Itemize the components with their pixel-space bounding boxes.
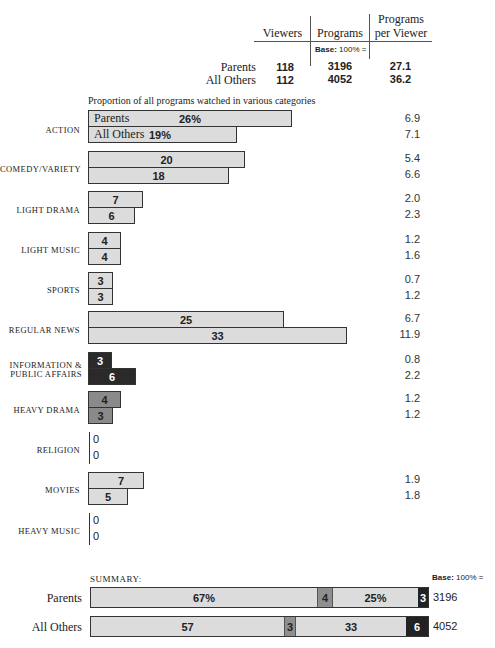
bar-heavy-drama-others: 3 [88,407,113,424]
chart-subtitle: Proportion of all programs watched in va… [88,95,315,106]
base-rest: 100% = [339,45,366,54]
category-label-heavy-music: HEAVY MUSIC [0,526,80,536]
ppv-heavy-drama-parents: 1.2 [395,392,420,404]
ppv-sports-parents: 0.7 [395,273,420,285]
value: 6 [109,371,115,383]
bar-info-others: 6 [88,368,136,385]
value: 25 [180,314,192,326]
summary-title: SUMMARY: [90,574,142,584]
ppv-news-parents: 6.7 [395,312,420,324]
base-bold: Base: [432,573,454,582]
segment-info-public-affairs: 6 [406,617,428,636]
category-label-movies: MOVIES [0,485,80,495]
header-rule [254,41,432,42]
ppv-sports-others: 1.2 [395,289,420,301]
value: 19% [149,129,171,141]
ppv-light-drama-others: 2.3 [395,208,420,220]
col-header-ppv-line2: per Viewer [370,26,432,40]
category-label-comedy-variety: COMEDY/VARIETY [0,164,80,174]
segment-heavy-drama: 4 [317,588,332,607]
bar-news-parents: 25 [88,311,284,328]
value: 26% [179,113,201,125]
value-heavy-music-parents: 0 [93,514,99,526]
bar-action-parents: Parents 26% [88,110,292,127]
base-rest: 100% = [456,573,483,582]
col-header-viewers: Viewers [255,26,310,40]
viewers-parents: 118 [265,61,305,73]
summary-row-label-others: All Others [0,620,82,635]
ppv-light-music-parents: 1.2 [395,233,420,245]
bar-heavy-drama-parents: 4 [88,391,121,408]
ppv-parents: 27.1 [378,60,423,72]
segment-info-public-affairs: 3 [418,588,428,607]
segment-light-entertainment: 57 [91,617,284,636]
bar-light-drama-parents: 7 [88,191,143,208]
ppv-others: 36.2 [378,73,423,85]
programs-others: 4052 [315,73,365,85]
value: 33 [211,330,223,342]
value: 3 [97,355,103,367]
ppv-action-others: 7.1 [395,128,420,140]
legend-others: All Others [94,127,144,142]
ppv-news-others: 11.9 [395,328,420,340]
ppv-comedy-others: 6.6 [395,168,420,180]
ppv-light-drama-parents: 2.0 [395,192,420,204]
summary-base-others: 4052 [433,620,457,632]
segment-light-entertainment: 67% [91,588,317,607]
segment-news: 33 [295,617,406,636]
bar-movies-parents: 7 [88,472,144,489]
col-header-programs: Programs [311,26,369,40]
category-label-religion: RELIGION [0,445,80,455]
value: 7 [108,475,124,487]
ppv-comedy-parents: 5.4 [395,152,420,164]
ppv-heavy-drama-others: 1.2 [395,408,420,420]
bar-movies-others: 5 [88,488,128,505]
value: 3 [97,410,103,422]
value: 20 [160,154,172,166]
value-religion-parents: 0 [93,433,99,445]
bar-light-music-parents: 4 [88,232,121,249]
value: 18 [152,170,164,182]
value: 4 [101,235,107,247]
category-label-regular-news: REGULAR NEWS [0,325,80,335]
value-heavy-music-others: 0 [93,530,99,542]
bar-light-drama-others: 6 [88,207,135,224]
bar-sports-parents: 3 [88,272,113,289]
value-religion-others: 0 [93,449,99,461]
value: 7 [112,194,118,206]
bar-news-others: 33 [88,327,347,344]
bar-info-parents: 3 [88,352,112,369]
zero-axis [89,513,90,545]
bar-comedy-others: 18 [88,167,229,184]
summary-row-label-parents: Parents [0,591,82,606]
value: 6 [108,210,114,222]
ppv-info-others: 2.2 [395,369,420,381]
category-label-action: ACTION [0,125,80,135]
value: 5 [105,491,111,503]
row-label-others: All Others [180,73,256,88]
summary-base-label: Base: 100% = [432,573,483,582]
category-label-light-drama: LIGHT DRAMA [0,205,80,215]
ppv-movies-others: 1.8 [395,489,420,501]
ppv-movies-parents: 1.9 [395,473,420,485]
ppv-light-music-others: 1.6 [395,249,420,261]
bar-sports-others: 3 [88,288,113,305]
category-label-light-music: LIGHT MUSIC [0,245,80,255]
segment-news: 25% [332,588,418,607]
summary-bar-others: 57 3 33 6 [90,616,429,637]
value: 4 [101,251,107,263]
category-label-sports: SPORTS [0,285,80,295]
bar-comedy-parents: 20 [88,151,245,168]
legend-parents: Parents [94,111,129,126]
value: 3 [97,275,103,287]
bar-action-others: All Others 19% [88,126,237,143]
value: 4 [101,394,107,406]
base-bold: Base: [315,45,337,54]
bar-light-music-others: 4 [88,248,121,265]
summary-base-parents: 3196 [433,591,457,603]
base-label: Base: 100% = [315,45,366,54]
segment-heavy-drama: 3 [284,617,295,636]
ppv-info-parents: 0.8 [395,353,420,365]
category-label-info-public-affairs-2: PUBLIC AFFAIRS [0,369,82,379]
programs-parents: 3196 [315,60,365,72]
